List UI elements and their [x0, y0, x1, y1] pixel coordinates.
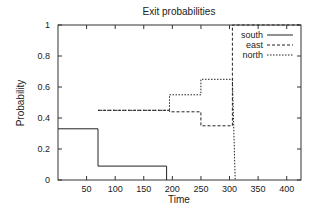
y-tick-label: 1 — [45, 20, 50, 30]
y-tick-label: 0.4 — [37, 113, 50, 123]
legend-label-north: north — [242, 50, 263, 60]
x-tick-label: 300 — [222, 184, 237, 194]
y-tick-label: 0.2 — [37, 144, 50, 154]
y-tick-label: 0.8 — [37, 51, 50, 61]
x-tick-label: 400 — [279, 184, 294, 194]
legend-label-south: south — [241, 30, 263, 40]
y-tick-label: 0.6 — [37, 82, 50, 92]
x-tick-label: 50 — [82, 184, 92, 194]
exit-probabilities-chart: Exit probabilities 501001502002503003504… — [0, 0, 317, 216]
legend: southeastnorth — [241, 30, 293, 60]
plot-frame — [58, 25, 301, 180]
series-north — [98, 79, 235, 180]
x-tick-label: 200 — [165, 184, 180, 194]
legend-label-east: east — [246, 40, 264, 50]
x-tick-label: 350 — [251, 184, 266, 194]
x-tick-label: 100 — [108, 184, 123, 194]
y-tick-label: 0 — [45, 175, 50, 185]
chart-title: Exit probabilities — [143, 6, 216, 17]
series-south — [58, 129, 167, 180]
series-lines — [58, 25, 301, 180]
x-tick-label: 250 — [193, 184, 208, 194]
y-axis-label: Probability — [15, 80, 26, 127]
x-axis-label: Time — [168, 194, 190, 205]
x-tick-label: 150 — [136, 184, 151, 194]
